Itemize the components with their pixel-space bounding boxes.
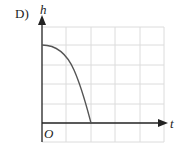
- x-axis: [42, 119, 168, 127]
- grid-lines: [42, 27, 164, 142]
- x-axis-label: t: [170, 116, 174, 132]
- origin-label: O: [44, 126, 53, 142]
- chart-plot: [0, 0, 177, 149]
- x-axis-arrow-icon: [158, 119, 168, 127]
- option-label: D): [15, 6, 29, 22]
- y-axis-label: h: [40, 2, 47, 18]
